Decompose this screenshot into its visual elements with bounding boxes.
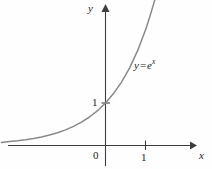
x-tick-label-1: 1 (141, 152, 147, 163)
equation-exponent: x (152, 57, 155, 66)
plot-canvas (0, 0, 212, 169)
origin-label: 0 (93, 150, 99, 161)
curve-equation-label: y=ex (134, 60, 155, 71)
x-axis-arrowhead (190, 142, 197, 150)
exponential-curve (2, 0, 156, 142)
y-axis-label: y (88, 3, 93, 14)
equation-operator: = (139, 59, 147, 71)
x-axis-label: x (199, 150, 204, 161)
y-axis-arrowhead (102, 4, 110, 12)
y-tick-label-1: 1 (92, 97, 98, 108)
exponential-function-figure: y x 0 1 1 y=ex (0, 0, 212, 169)
